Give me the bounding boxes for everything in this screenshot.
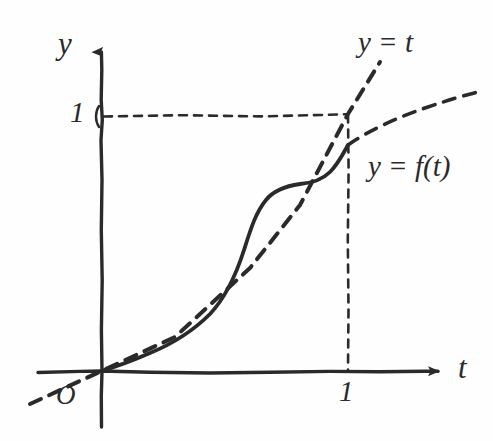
x-axis-tick-label-1: 1 [339, 377, 354, 406]
t-axis-label: t [458, 352, 467, 383]
identity-line-annotation: y = t [358, 28, 413, 57]
y-axis-tick-1 [96, 106, 99, 127]
origin-label: O [56, 382, 76, 409]
series-curve-extension-dashed [348, 92, 478, 145]
graph-canvas [0, 0, 493, 441]
y-axis-label: y [58, 28, 72, 59]
function-curve-annotation: y = f(t) [368, 152, 450, 181]
reference-line-y-equals-1 [104, 114, 348, 116]
y-axis-tick-label-1: 1 [70, 98, 85, 127]
figure-container: y t O 1 1 y = t y = f(t) [0, 0, 493, 441]
series-curve-y-equals-f-of-t [102, 145, 349, 371]
reference-line-t-equals-1 [348, 115, 349, 371]
